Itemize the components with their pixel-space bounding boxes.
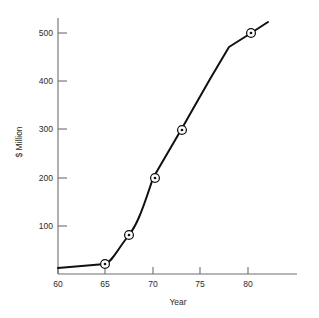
data-point-marker: [151, 174, 160, 183]
x-tick-label-80: 80: [243, 279, 253, 289]
y-tick-label-400: 400: [39, 76, 53, 86]
y-tick-label-300: 300: [39, 124, 53, 134]
x-tick-label-65: 65: [100, 279, 110, 289]
data-point-marker: [101, 260, 110, 269]
x-tick-label-60: 60: [53, 279, 63, 289]
x-tick-label-70: 70: [148, 279, 158, 289]
y-tick-label-100: 100: [39, 221, 53, 231]
y-axis-title: $ Million: [14, 126, 24, 157]
x-axis-title: Year: [169, 297, 186, 307]
chart-canvas: 500 400 300 200 100 60 65 70 75 80 Year …: [0, 0, 319, 318]
x-tick-label-75: 75: [195, 279, 205, 289]
data-point-marker: [125, 231, 134, 240]
y-tick-label-500: 500: [39, 28, 53, 38]
data-line-sales: [58, 22, 268, 268]
chart-figure: 500 400 300 200 100 60 65 70 75 80 Year …: [0, 0, 319, 318]
data-point-marker: [247, 29, 256, 38]
data-point-marker: [178, 126, 187, 135]
y-tick-label-200: 200: [39, 173, 53, 183]
